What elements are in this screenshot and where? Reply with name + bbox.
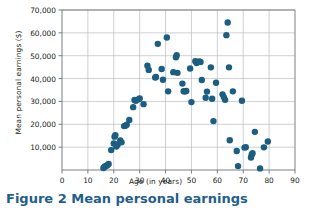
data-point <box>112 132 118 138</box>
data-point <box>227 137 233 143</box>
data-point <box>261 144 267 150</box>
data-point <box>234 148 240 154</box>
x-tick-label: 60 <box>213 176 222 185</box>
data-point <box>249 150 255 156</box>
y-tick-label: 20,000 <box>0 120 56 129</box>
figure-caption-text: Figure 2 Mean personal earnings <box>6 191 248 206</box>
data-point <box>209 95 215 101</box>
data-point <box>210 118 216 124</box>
data-point <box>179 80 185 86</box>
data-point <box>164 34 170 40</box>
data-point <box>183 88 189 94</box>
y-tick-label: 30,000 <box>0 97 56 106</box>
data-point <box>174 70 180 76</box>
data-point <box>252 129 258 135</box>
data-point <box>239 98 245 104</box>
data-point <box>188 99 194 105</box>
x-tick-label: 30 <box>135 176 144 185</box>
data-point <box>199 77 205 83</box>
x-tick-label: 80 <box>264 176 273 185</box>
x-tick-label: 10 <box>83 176 92 185</box>
scatter-plot: Mean personal earnings ($) Age (in years… <box>0 0 311 190</box>
data-point <box>202 95 208 101</box>
data-point <box>230 88 236 94</box>
data-point <box>222 97 228 103</box>
data-point <box>136 95 142 101</box>
data-point <box>265 138 271 144</box>
figure-caption: Figure 2 Mean personal earnings <box>0 190 311 208</box>
data-point <box>226 64 232 70</box>
y-tick-label: 70,000 <box>0 6 56 15</box>
figure-container: Mean personal earnings ($) Age (in years… <box>0 0 311 208</box>
y-tick-label: 60,000 <box>0 28 56 37</box>
data-point <box>204 88 210 94</box>
data-point <box>224 19 230 25</box>
plot-frame <box>62 10 295 170</box>
x-tick-label: 70 <box>239 176 248 185</box>
data-point <box>160 77 166 83</box>
data-point <box>243 144 249 150</box>
data-point <box>140 101 146 107</box>
data-point <box>130 104 136 110</box>
data-point <box>223 32 229 38</box>
x-tick-label: 50 <box>187 176 196 185</box>
data-point <box>197 59 203 65</box>
data-point <box>105 161 111 167</box>
data-point <box>118 139 124 145</box>
data-point <box>213 79 219 85</box>
data-point <box>153 74 159 80</box>
x-tick-label: 90 <box>290 176 299 185</box>
x-tick-label: 20 <box>109 176 118 185</box>
data-point <box>187 65 193 71</box>
data-point <box>155 41 161 47</box>
data-point <box>108 147 114 153</box>
x-tick-label: 40 <box>161 176 170 185</box>
data-point <box>146 67 152 73</box>
y-tick-label: 50,000 <box>0 51 56 60</box>
data-point <box>235 163 241 169</box>
data-point <box>165 88 171 94</box>
x-tick-label: 0 <box>60 176 65 185</box>
data-point <box>126 117 132 123</box>
data-point <box>208 64 214 70</box>
data-point <box>158 66 164 72</box>
data-point <box>173 52 179 58</box>
y-tick-label: 40,000 <box>0 74 56 83</box>
y-tick-label: 10,000 <box>0 143 56 152</box>
data-point <box>257 165 263 171</box>
